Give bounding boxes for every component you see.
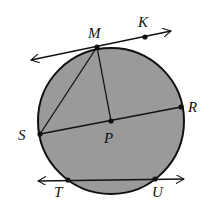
point-s <box>37 131 42 136</box>
geometry-diagram: M K R S P T U <box>0 0 210 205</box>
point-m <box>94 44 99 49</box>
point-r <box>178 104 183 109</box>
point-k <box>142 34 147 39</box>
point-p <box>108 118 113 123</box>
label-k: K <box>137 14 149 30</box>
label-p: P <box>103 130 113 146</box>
label-m: M <box>87 25 102 41</box>
point-u <box>152 176 157 181</box>
label-t: T <box>54 184 64 200</box>
label-s: S <box>18 127 26 143</box>
label-r: R <box>187 99 197 115</box>
point-t <box>65 177 70 182</box>
diagram-svg: M K R S P T U <box>0 0 210 205</box>
label-u: U <box>152 184 164 200</box>
